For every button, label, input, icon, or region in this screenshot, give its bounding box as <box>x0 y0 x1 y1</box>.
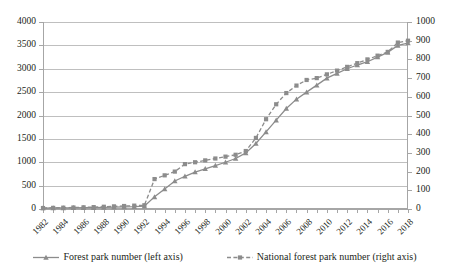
square-marker-icon <box>345 65 349 69</box>
right-axis-tick-label: 300 <box>416 148 450 158</box>
right-axis-tick <box>408 172 412 173</box>
x-axis-tick <box>124 209 125 213</box>
square-marker-icon <box>305 78 309 82</box>
x-axis-tick <box>367 209 368 213</box>
x-axis-tick <box>317 209 318 213</box>
square-marker-icon <box>254 136 258 140</box>
series-line <box>43 43 408 208</box>
x-axis-tick-label: 1996 <box>167 217 192 242</box>
left-axis-tick-label: 2000 <box>2 111 36 121</box>
square-marker-icon <box>163 173 167 177</box>
x-axis-tick <box>276 209 277 213</box>
x-axis-tick <box>195 209 196 213</box>
left-axis-tick-label: 3000 <box>2 64 36 74</box>
x-axis-tick-label: 2016 <box>370 217 395 242</box>
series-plot <box>43 22 408 209</box>
x-axis-tick-label: 2010 <box>309 217 334 242</box>
square-marker-icon <box>152 177 156 181</box>
chart-legend: Forest park number (left axis)National f… <box>0 246 450 268</box>
square-marker-icon <box>315 76 319 80</box>
right-axis-tick-label: 500 <box>416 111 450 121</box>
right-axis-tick-label: 700 <box>416 73 450 83</box>
square-marker-icon <box>71 205 75 209</box>
square-marker-icon <box>335 69 339 73</box>
legend-item-2[interactable]: National forest park number (right axis) <box>227 252 417 263</box>
x-axis-tick <box>408 209 409 213</box>
x-axis-tick <box>296 209 297 213</box>
x-axis-tick-label: 1992 <box>127 217 152 242</box>
square-marker-icon <box>102 205 106 209</box>
right-axis-tick-label: 1000 <box>416 17 450 27</box>
right-axis-tick-label: 800 <box>416 54 450 64</box>
right-axis-tick <box>408 190 412 191</box>
left-axis-tick-label: 3500 <box>2 40 36 50</box>
series-1 <box>40 40 410 210</box>
square-marker-icon <box>122 204 126 208</box>
x-axis-tick <box>165 209 166 213</box>
square-marker-icon <box>51 206 55 210</box>
left-axis-tick-label: 1000 <box>2 157 36 167</box>
square-marker-icon <box>234 153 238 157</box>
x-axis-tick-label: 2008 <box>289 217 314 242</box>
x-axis-tick <box>327 209 328 213</box>
series-2 <box>41 39 410 211</box>
x-axis-tick-label: 1998 <box>188 217 213 242</box>
right-axis-tick-label: 400 <box>416 129 450 139</box>
square-marker-icon <box>61 206 65 210</box>
left-axis-tick-label: 1500 <box>2 134 36 144</box>
square-marker-icon <box>355 61 359 65</box>
x-axis-tick-label: 2006 <box>269 217 294 242</box>
x-axis-tick <box>307 209 308 213</box>
x-axis-tick <box>347 209 348 213</box>
x-axis-tick <box>378 209 379 213</box>
x-axis-tick-label: 1990 <box>107 217 132 242</box>
square-marker-icon <box>406 39 410 43</box>
left-axis-tick-label: 2500 <box>2 87 36 97</box>
square-marker-icon <box>81 205 85 209</box>
square-marker-icon <box>142 203 146 207</box>
x-axis-tick <box>388 209 389 213</box>
square-marker-icon <box>112 204 116 208</box>
square-marker-icon <box>213 156 217 160</box>
x-axis-tick <box>266 209 267 213</box>
square-marker-icon <box>244 149 248 153</box>
plot-area <box>43 22 408 209</box>
square-marker-icon <box>193 160 197 164</box>
right-axis-tick-label: 100 <box>416 185 450 195</box>
x-axis-tick <box>134 209 135 213</box>
square-marker-icon <box>203 158 207 162</box>
right-axis-tick-label: 900 <box>416 36 450 46</box>
x-axis-tick-label: 2012 <box>330 217 355 242</box>
x-axis-tick-label: 1986 <box>66 217 91 242</box>
square-marker-icon <box>294 83 298 87</box>
x-axis-tick-label: 1984 <box>46 217 71 242</box>
x-axis-tick <box>256 209 257 213</box>
x-axis-tick <box>286 209 287 213</box>
right-axis-tick <box>408 59 412 60</box>
legend-item-1[interactable]: Forest park number (left axis) <box>33 252 182 263</box>
x-axis-tick <box>185 209 186 213</box>
legend-label: National forest park number (right axis) <box>257 252 417 262</box>
x-axis-tick <box>226 209 227 213</box>
square-marker-icon <box>223 155 227 159</box>
right-axis-tick <box>408 153 412 154</box>
x-axis-tick <box>155 209 156 213</box>
x-axis-tick <box>236 209 237 213</box>
x-axis-tick <box>357 209 358 213</box>
x-axis-tick <box>205 209 206 213</box>
square-marker-icon <box>183 162 187 166</box>
x-axis-tick-label: 1988 <box>86 217 111 242</box>
square-marker-icon <box>173 170 177 174</box>
right-axis-tick-label: 0 <box>416 204 450 214</box>
square-marker-icon <box>396 40 400 44</box>
x-axis-tick <box>337 209 338 213</box>
left-axis-tick-label: 4000 <box>2 17 36 27</box>
right-axis-tick <box>408 134 412 135</box>
x-axis-tick-label: 2002 <box>228 217 253 242</box>
x-axis-tick <box>114 209 115 213</box>
legend-label: Forest park number (left axis) <box>63 252 182 262</box>
square-marker-icon <box>375 54 379 58</box>
right-axis-tick-label: 600 <box>416 92 450 102</box>
x-axis-tick-label: 2014 <box>350 217 375 242</box>
square-marker-icon <box>264 117 268 121</box>
